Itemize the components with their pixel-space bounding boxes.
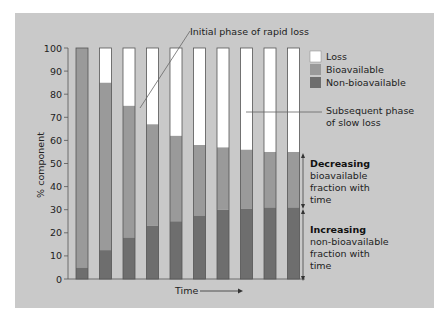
bar-segment-non-bioavailable (288, 207, 300, 279)
bar-2 (100, 48, 112, 279)
bar-segment-loss (217, 48, 229, 147)
annotation-increasing-line1: non-bioavailable (310, 236, 389, 247)
y-tick-label: 30 (50, 204, 62, 215)
bar-6 (194, 48, 206, 279)
annotation-decreasing-line1: bioavailable (310, 170, 368, 181)
bar-segment-bioavailable (170, 136, 182, 221)
annotation-increasing-line3: time (310, 260, 332, 271)
bar-segment-bioavailable (194, 145, 206, 215)
bar-segment-bioavailable (217, 147, 229, 209)
bar-segment-bioavailable (123, 106, 135, 238)
y-tick-label: 10 (50, 250, 62, 261)
y-tick-label: 80 (50, 89, 62, 100)
y-tick-label: 0 (56, 274, 62, 285)
legend-label-bioavailable: Bioavailable (326, 64, 384, 75)
bar-segment-bioavailable (76, 48, 88, 267)
y-axis-label: % component (35, 132, 46, 198)
annotation-decreasing-bold: Decreasing (310, 158, 370, 169)
bar-segment-loss (264, 48, 276, 152)
stacked-bar-chart: 0102030405060708090100 % component Time … (0, 0, 446, 323)
annotation-initial-phase: Initial phase of rapid loss (190, 26, 309, 37)
bar-segment-bioavailable (100, 83, 112, 250)
bar-segment-bioavailable (288, 152, 300, 207)
bar-segment-loss (123, 48, 135, 106)
nonbioavailable-bracket (301, 209, 305, 281)
bar-7 (217, 48, 229, 279)
y-tick-label: 20 (50, 227, 62, 238)
bar-1 (76, 48, 88, 279)
bar-segment-non-bioavailable (194, 215, 206, 279)
y-tick-label: 60 (50, 135, 62, 146)
bar-segment-non-bioavailable (123, 237, 135, 279)
x-axis-label: Time (174, 285, 198, 296)
annotation-decreasing-line2: fraction with (310, 182, 370, 193)
legend-label-nonbioavailable: Non-bioavailable (326, 77, 406, 88)
bar-segment-non-bioavailable (100, 250, 112, 279)
annotation-increasing-bold: Increasing (310, 224, 366, 235)
legend-swatch-loss (310, 51, 321, 62)
time-arrowhead-icon (238, 289, 243, 294)
bar-segment-non-bioavailable (170, 221, 182, 279)
bar-8 (241, 48, 253, 279)
y-tick-label: 70 (50, 112, 62, 123)
bar-segment-bioavailable (264, 152, 276, 207)
bar-5 (170, 48, 182, 279)
bar-segment-non-bioavailable (264, 207, 276, 279)
bar-segment-loss (147, 48, 159, 124)
bars (76, 48, 300, 279)
bar-segment-loss (194, 48, 206, 145)
bar-segment-loss (100, 48, 112, 83)
y-tick-label: 90 (50, 66, 62, 77)
bar-segment-loss (170, 48, 182, 136)
annotation-subsequent-line2: of slow loss (326, 117, 381, 128)
annotation-increasing-line2: fraction with (310, 248, 370, 259)
bar-segment-loss (241, 48, 253, 150)
bar-10 (288, 48, 300, 279)
bar-segment-non-bioavailable (147, 226, 159, 279)
legend-swatch-nonbioavailable (310, 77, 321, 88)
y-tick-label: 50 (50, 158, 62, 169)
y-tick-label: 100 (44, 43, 62, 54)
legend-label-loss: Loss (326, 51, 347, 62)
bar-segment-non-bioavailable (217, 210, 229, 279)
y-tick-label: 40 (50, 181, 62, 192)
legend: Loss Bioavailable Non-bioavailable (310, 51, 406, 88)
bar-segment-bioavailable (147, 124, 159, 226)
bar-9 (264, 48, 276, 279)
bar-3 (123, 48, 135, 279)
annotation-subsequent-line1: Subsequent phase (326, 105, 414, 116)
bar-segment-non-bioavailable (241, 209, 253, 279)
bar-segment-loss (288, 48, 300, 152)
legend-swatch-bioavailable (310, 64, 321, 75)
annotation-decreasing-line3: time (310, 194, 332, 205)
bioavailable-bracket (301, 153, 305, 209)
bar-segment-non-bioavailable (76, 267, 88, 279)
bar-segment-bioavailable (241, 150, 253, 209)
